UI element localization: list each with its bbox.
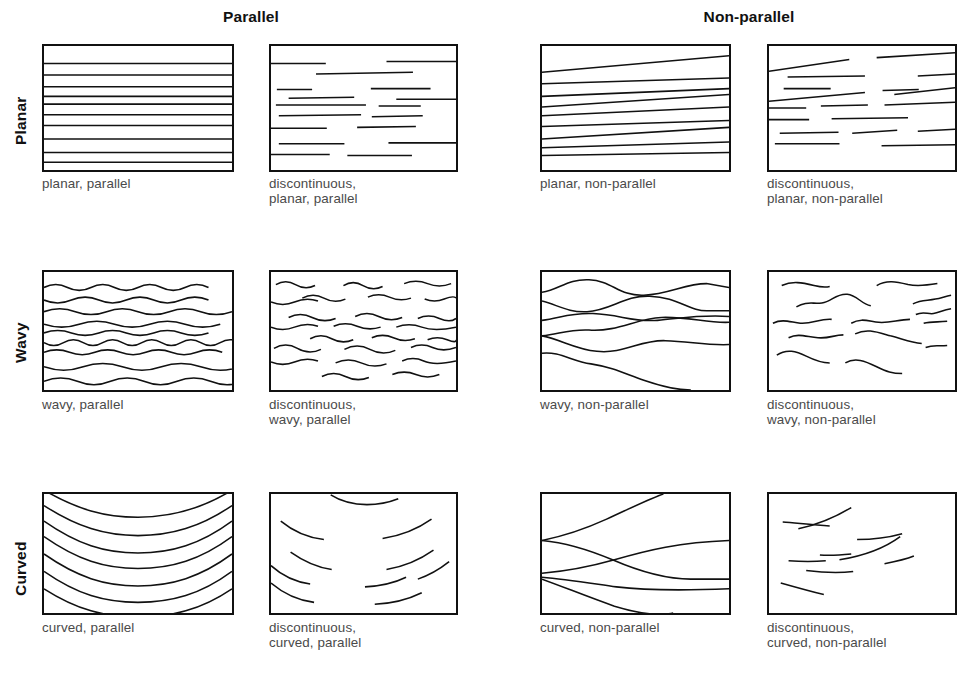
diagram-discontinuous-planar-parallel — [271, 46, 456, 170]
diagram-curved-parallel — [44, 494, 232, 613]
caption-discontinuous-planar-non-parallel: discontinuous, planar, non-parallel — [767, 176, 883, 207]
panel-discontinuous-wavy-parallel — [269, 270, 458, 392]
diagram-discontinuous-curved-non-parallel — [769, 494, 955, 613]
diagram-discontinuous-planar-non-parallel — [769, 46, 955, 170]
caption-discontinuous-curved-parallel: discontinuous, curved, parallel — [269, 620, 361, 651]
panel-planar-non-parallel — [540, 44, 731, 172]
panel-discontinuous-planar-parallel — [269, 44, 458, 172]
caption-curved-non-parallel: curved, non-parallel — [540, 620, 660, 635]
column-header-non-parallel: Non-parallel — [704, 8, 795, 26]
caption-planar-parallel: planar, parallel — [42, 176, 131, 191]
panel-curved-parallel — [42, 492, 234, 615]
caption-discontinuous-curved-non-parallel: discontinuous, curved, non-parallel — [767, 620, 887, 651]
panel-wavy-non-parallel — [540, 270, 731, 392]
panel-discontinuous-curved-parallel — [269, 492, 458, 615]
diagram-planar-parallel — [44, 46, 232, 170]
row-label-curved: Curved — [12, 541, 30, 596]
panel-discontinuous-wavy-non-parallel — [767, 270, 957, 392]
panel-curved-non-parallel — [540, 492, 731, 615]
diagram-curved-non-parallel — [542, 494, 729, 613]
caption-discontinuous-wavy-parallel: discontinuous, wavy, parallel — [269, 397, 356, 428]
column-header-parallel: Parallel — [223, 8, 279, 26]
caption-wavy-non-parallel: wavy, non-parallel — [540, 397, 649, 412]
row-label-planar: Planar — [12, 96, 30, 145]
diagram-discontinuous-wavy-non-parallel — [769, 272, 955, 390]
caption-discontinuous-wavy-non-parallel: discontinuous, wavy, non-parallel — [767, 397, 876, 428]
diagram-wavy-non-parallel — [542, 272, 729, 390]
diagram-discontinuous-wavy-parallel — [271, 272, 456, 390]
panel-planar-parallel — [42, 44, 234, 172]
panel-wavy-parallel — [42, 270, 234, 392]
caption-planar-non-parallel: planar, non-parallel — [540, 176, 656, 191]
lamination-classification-figure: Parallel Non-parallel Planar Wavy Curved… — [0, 0, 972, 677]
caption-wavy-parallel: wavy, parallel — [42, 397, 124, 412]
row-label-wavy: Wavy — [12, 322, 30, 363]
diagram-wavy-parallel — [44, 272, 232, 390]
panel-discontinuous-curved-non-parallel — [767, 492, 957, 615]
diagram-planar-non-parallel — [542, 46, 729, 170]
caption-curved-parallel: curved, parallel — [42, 620, 134, 635]
caption-discontinuous-planar-parallel: discontinuous, planar, parallel — [269, 176, 358, 207]
panel-discontinuous-planar-non-parallel — [767, 44, 957, 172]
diagram-discontinuous-curved-parallel — [271, 494, 456, 613]
